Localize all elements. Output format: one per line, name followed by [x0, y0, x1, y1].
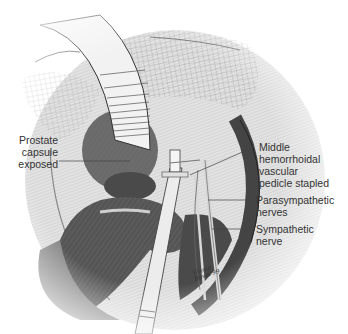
label-line: nerve [256, 235, 314, 247]
label-line: hemorrhoidal [259, 153, 329, 165]
label-line: Parasympathetic [256, 194, 334, 206]
label-line: Prostate [4, 134, 58, 146]
label-line: Sympathetic [256, 223, 314, 235]
label-parasympathetic-nerves: Parasympathetic nerves [256, 194, 334, 218]
label-prostate-capsule: Prostate capsule exposed [4, 134, 58, 170]
label-line: capsule [4, 146, 58, 158]
label-line: pedicle stapled [259, 177, 329, 189]
label-line: exposed [4, 158, 58, 170]
label-middle-hemorrhoidal-pedicle: Middle hemorrhoidal vascular pedicle sta… [259, 141, 329, 189]
label-sympathetic-nerve: Sympathetic nerve [256, 223, 314, 247]
label-line: Middle [259, 141, 329, 153]
label-line: nerves [256, 206, 334, 218]
label-line: vascular [259, 165, 329, 177]
